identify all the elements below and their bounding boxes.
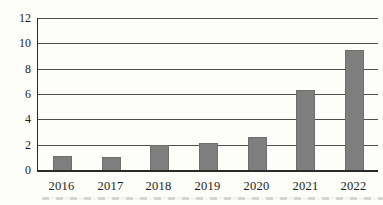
bar (345, 50, 364, 170)
x-tick-label: 2021 (281, 179, 330, 193)
y-tick-label: 8 (0, 62, 31, 76)
gridline (38, 119, 378, 120)
bar-chart: 0246810122016201720182019202020212022 (0, 0, 383, 205)
y-tick-label: 10 (0, 36, 31, 50)
x-tick-label: 2019 (183, 179, 232, 193)
x-tick-label: 2022 (329, 179, 378, 193)
gridline (38, 69, 378, 70)
bar (248, 137, 267, 170)
y-tick-label: 0 (0, 163, 31, 177)
gridline (38, 43, 378, 44)
gridline (38, 18, 378, 19)
bar (53, 156, 72, 170)
y-tick-label: 2 (0, 138, 31, 152)
gridline (38, 94, 378, 95)
y-tick-label: 4 (0, 112, 31, 126)
bar (102, 157, 121, 170)
bar (199, 143, 218, 170)
x-tick-label: 2016 (37, 179, 86, 193)
scan-artifact (42, 197, 383, 200)
bar (150, 145, 169, 170)
bar (296, 90, 315, 170)
x-tick-label: 2018 (134, 179, 183, 193)
y-tick-label: 6 (0, 87, 31, 101)
x-tick-label: 2017 (86, 179, 135, 193)
x-tick-label: 2020 (232, 179, 281, 193)
plot-area (37, 18, 378, 172)
y-tick-label: 12 (0, 11, 31, 25)
